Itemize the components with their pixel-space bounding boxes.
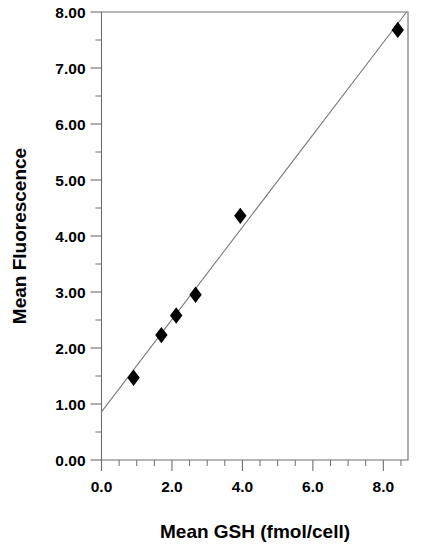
x-tick-label: 0.0: [91, 478, 113, 495]
data-point-marker: [234, 208, 246, 224]
y-tick-label: 5.00: [55, 172, 85, 189]
x-axis-title: Mean GSH (fmol/cell): [160, 521, 350, 542]
x-axis-tick-labels: 0.02.04.06.08.0: [91, 478, 394, 495]
x-axis-ticks: [102, 460, 401, 471]
x-tick-label: 4.0: [232, 478, 254, 495]
data-point-marker: [189, 287, 201, 303]
data-point-marker: [127, 369, 139, 385]
plot-frame: [102, 12, 409, 460]
y-tick-label: 8.00: [55, 4, 85, 21]
chart-figure: 0.02.04.06.08.0 0.001.002.003.004.005.00…: [0, 0, 425, 552]
data-point-marker: [170, 307, 182, 323]
y-tick-label: 4.00: [55, 228, 85, 245]
x-tick-label: 8.0: [373, 478, 395, 495]
y-tick-label: 6.00: [55, 116, 85, 133]
y-axis-ticks: [91, 12, 102, 460]
data-point-marker: [155, 327, 167, 343]
y-tick-label: 7.00: [55, 60, 85, 77]
y-axis-tick-labels: 0.001.002.003.004.005.006.007.008.00: [55, 4, 85, 469]
data-point-marker: [392, 22, 404, 38]
y-tick-label: 2.00: [55, 340, 85, 357]
scatter-plot: 0.02.04.06.08.0 0.001.002.003.004.005.00…: [0, 0, 425, 552]
data-point-group: [127, 22, 404, 386]
y-axis-title: Mean Fluorescence: [9, 148, 30, 324]
y-tick-label: 1.00: [55, 396, 85, 413]
x-tick-label: 2.0: [161, 478, 183, 495]
regression-line: [102, 12, 407, 412]
x-tick-label: 6.0: [302, 478, 324, 495]
y-tick-label: 0.00: [55, 452, 85, 469]
y-tick-label: 3.00: [55, 284, 85, 301]
